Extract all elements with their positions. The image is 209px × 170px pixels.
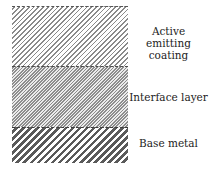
interface-layer <box>12 66 128 127</box>
base-metal-label: Base metal <box>128 137 209 149</box>
coating-label-line-2: coating <box>128 49 209 61</box>
layer-cross-section-diagram: Active emitting coating Interface layer … <box>0 0 209 170</box>
active-emitting-coating-layer <box>12 6 128 66</box>
coating-label: Active emitting coating <box>128 25 209 61</box>
interface-label-line-1: Interface layer <box>128 91 209 103</box>
coating-label-line-1: Active emitting <box>128 25 209 49</box>
base-metal-label-line-1: Base metal <box>128 137 209 149</box>
base-metal-layer <box>12 127 128 163</box>
interface-label: Interface layer <box>128 91 209 103</box>
